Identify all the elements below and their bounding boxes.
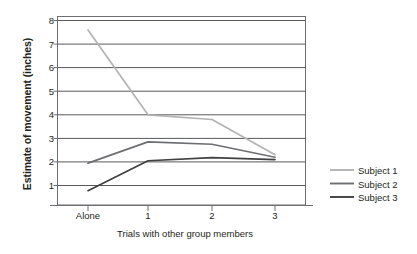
chart-figure: Estimate of movement (inches) Trials wit… [0,0,417,254]
data-series-layer [88,30,275,191]
plot-area [0,0,417,254]
legend-item-subject-2[interactable]: Subject 2 [358,180,398,189]
legend-item-subject-3[interactable]: Subject 3 [358,193,398,202]
legend-swatches [330,170,354,197]
y-axis-ticks [54,21,58,186]
legend-item-subject-1[interactable]: Subject 1 [358,166,398,175]
plot-frame [58,17,306,206]
series-line-subject-1 [88,30,275,155]
